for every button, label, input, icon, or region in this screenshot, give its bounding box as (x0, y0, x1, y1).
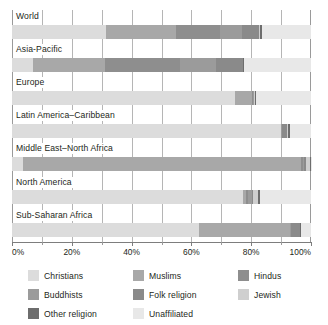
legend-item-christians[interactable]: Christians (28, 270, 133, 281)
bar-row: Latin America–Caribbean (12, 109, 311, 142)
legend-label: Muslims (149, 271, 181, 281)
axis-tick-major (251, 242, 252, 246)
row-label: Europe (14, 77, 47, 88)
bar-segment-muslims (106, 25, 175, 39)
bar-segment-christians (12, 91, 235, 105)
bar-segment-folk-religion (216, 58, 243, 72)
bar-row: North America (12, 176, 311, 209)
legend-item-muslims[interactable]: Muslims (133, 270, 238, 281)
axis-tick-minor (221, 242, 222, 245)
axis-tick-minor (42, 242, 43, 245)
row-label: Sub-Saharan Africa (14, 210, 95, 221)
axis-tick-minor (162, 242, 163, 245)
legend-item-folk-religion[interactable]: Folk religion (133, 289, 238, 300)
legend-swatch-icon (28, 308, 39, 319)
axis-tick-label: 0% (12, 247, 24, 257)
axis-tick-major (191, 242, 192, 246)
bar-segment-unaffiliated (301, 223, 311, 237)
legend-label: Hindus (254, 271, 281, 281)
bar-segment-hindus (176, 25, 221, 39)
stacked-bar (12, 124, 311, 138)
axis-tick-label: 20% (63, 247, 80, 257)
bar-segment-unaffiliated (256, 91, 311, 105)
legend-label: Unaffiliated (149, 309, 193, 319)
legend-swatch-icon (28, 270, 39, 281)
bar-row: Sub-Saharan Africa (12, 209, 311, 242)
row-label: Asia-Pacific (14, 44, 65, 55)
stacked-bar (12, 58, 311, 72)
bar-segment-folk-religion (291, 223, 300, 237)
bar-segment-christians (12, 58, 33, 72)
legend-item-jewish[interactable]: Jewish (238, 289, 324, 300)
bar-row: World (12, 10, 311, 43)
legend-item-hindus[interactable]: Hindus (238, 270, 324, 281)
row-label: North America (14, 177, 75, 188)
legend-swatch-icon (238, 289, 249, 300)
stacked-bar (12, 25, 311, 39)
legend-item-buddhists[interactable]: Buddhists (28, 289, 133, 300)
legend-label: Christians (44, 271, 83, 281)
bar-segment-muslims (33, 58, 105, 72)
axis-tick-major (72, 242, 73, 246)
bar-segment-buddhists (220, 25, 241, 39)
row-label: Latin America–Caribbean (14, 110, 118, 121)
bar-segment-muslims (199, 223, 289, 237)
axis-tick-label: 80% (243, 247, 260, 257)
bar-segment-unaffiliated (260, 190, 311, 204)
bar-row: Asia-Pacific (12, 43, 311, 76)
stacked-bar (12, 223, 311, 237)
bar-segment-christians (12, 124, 281, 138)
bar-segment-unaffiliated (244, 58, 311, 72)
bar-segment-unaffiliated (262, 25, 311, 39)
bar-segment-christians (12, 190, 243, 204)
legend-label: Jewish (254, 290, 281, 300)
bar-row: Middle East–North Africa (12, 142, 311, 175)
row-label: World (14, 11, 42, 22)
axis-tick-label: 100% (290, 247, 311, 257)
axis-tick-major (132, 242, 133, 246)
bar-segment-muslims (235, 91, 253, 105)
axis-tick-major (311, 242, 312, 246)
legend-swatch-icon (28, 289, 39, 300)
legend-swatch-icon (238, 270, 249, 281)
stacked-bar (12, 190, 311, 204)
legend-item-unaffiliated[interactable]: Unaffiliated (133, 308, 238, 319)
chart-legend: ChristiansMuslimsHindusBuddhistsFolk rel… (28, 266, 324, 323)
bar-segment-unaffiliated (290, 124, 311, 138)
bar-segment-hindus (105, 58, 181, 72)
stacked-bar (12, 91, 311, 105)
axis-tick-major (12, 242, 13, 246)
bar-segment-buddhists (180, 58, 216, 72)
bar-row: Europe (12, 76, 311, 109)
legend-swatch-icon (133, 270, 144, 281)
axis-tick-label: 40% (123, 247, 140, 257)
bar-segment-christians (12, 157, 23, 171)
axis-tick-minor (281, 242, 282, 245)
plot-area: WorldAsia-PacificEuropeLatin America–Car… (12, 10, 311, 242)
axis-tick-label: 60% (183, 247, 200, 257)
axis-tick-minor (102, 242, 103, 245)
legend-label: Buddhists (44, 290, 83, 300)
legend-label: Other religion (44, 309, 97, 319)
stacked-bar (12, 157, 311, 171)
stacked-bar-chart: WorldAsia-PacificEuropeLatin America–Car… (0, 0, 328, 325)
bar-segment-christians (12, 223, 199, 237)
bar-segment-muslims (23, 157, 301, 171)
row-label: Middle East–North Africa (14, 143, 116, 154)
legend-swatch-icon (133, 289, 144, 300)
bar-segment-christians (12, 25, 106, 39)
legend-item-other-religion[interactable]: Other religion (28, 308, 133, 319)
legend-label: Folk religion (149, 290, 197, 300)
bar-segment-folk-religion (242, 25, 260, 39)
legend-swatch-icon (133, 308, 144, 319)
